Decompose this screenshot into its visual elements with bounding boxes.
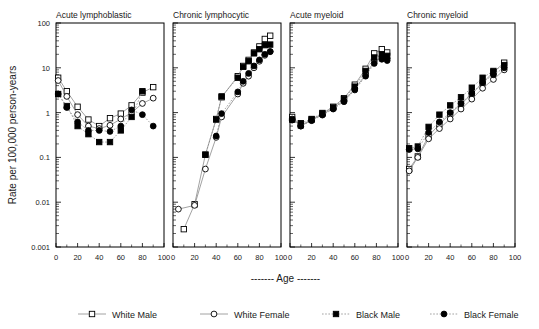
marker-filled-circle (289, 117, 295, 123)
leukemia-incidence-figure: Rate per 100,000 person-years1001010.10.… (0, 0, 539, 329)
legend-marker-open-square (89, 311, 94, 316)
x-tick-label: 60 (468, 253, 476, 262)
y-tick-label: 100 (37, 19, 50, 28)
legend-label: White Female (234, 310, 290, 320)
x-tick-label: 0 (171, 253, 175, 262)
x-tick-label: 80 (138, 253, 146, 262)
marker-filled-circle (246, 71, 252, 77)
marker-filled-circle (107, 129, 113, 135)
legend-label: Black Female (464, 310, 519, 320)
marker-filled-square (469, 85, 474, 90)
marker-open-square (107, 116, 112, 121)
x-tick-label: 0 (288, 253, 292, 262)
x-tick-label: 40 (212, 253, 220, 262)
marker-filled-circle (309, 118, 315, 124)
x-tick-label: 60 (351, 253, 359, 262)
marker-filled-circle (458, 101, 464, 107)
marker-open-circle (469, 96, 475, 102)
marker-filled-circle (150, 123, 156, 129)
marker-filled-square (214, 117, 219, 122)
marker-open-circle (426, 136, 432, 142)
marker-filled-square (129, 114, 134, 119)
marker-filled-circle (118, 123, 124, 129)
legend: White MaleWhite FemaleBlack MaleBlack Fe… (78, 310, 519, 320)
x-tick-label: 100 (275, 253, 288, 262)
marker-filled-circle (415, 146, 421, 152)
marker-open-circle (75, 112, 81, 118)
marker-filled-square (203, 152, 208, 157)
marker-filled-square (219, 94, 224, 99)
marker-filled-circle (251, 63, 257, 69)
x-tick-label: 80 (255, 253, 263, 262)
panel-4: Chronic myeloid020406080100 (405, 10, 521, 262)
marker-open-circle (437, 126, 443, 132)
x-tick-label: 40 (446, 253, 454, 262)
legend-label: White Male (112, 310, 157, 320)
marker-filled-square (458, 95, 463, 100)
panel-3: Acute myeloid020406080100 (288, 10, 404, 262)
x-tick-label: 100 (392, 253, 405, 262)
series-line-white-female (178, 52, 270, 210)
marker-open-circle (415, 155, 421, 161)
marker-filled-circle (363, 73, 369, 79)
panel-title: Chronic lymphocytic (173, 10, 250, 20)
marker-filled-circle (219, 111, 225, 117)
marker-filled-circle (298, 123, 304, 129)
x-tick-label: 100 (509, 253, 522, 262)
marker-filled-circle (426, 130, 432, 136)
marker-filled-circle (64, 105, 70, 111)
marker-filled-square (257, 47, 262, 52)
marker-filled-circle (469, 90, 475, 96)
marker-filled-circle (262, 51, 268, 57)
marker-filled-circle (341, 99, 347, 105)
marker-filled-circle (213, 133, 219, 139)
marker-open-square (262, 36, 267, 41)
legend-item-white-female[interactable]: White Female (200, 310, 290, 320)
series-line-black-female (292, 59, 387, 126)
marker-filled-circle (379, 56, 385, 62)
marker-filled-square (246, 59, 251, 64)
x-tick-label: 80 (489, 253, 497, 262)
x-tick-label: 80 (372, 253, 380, 262)
marker-open-circle (447, 116, 453, 122)
x-tick-label: 20 (73, 253, 81, 262)
marker-filled-square (241, 64, 246, 69)
y-tick-label: 0.1 (40, 153, 50, 162)
marker-filled-circle (384, 58, 390, 64)
legend-marker-filled-circle (441, 311, 447, 317)
y-axis-label: Rate per 100,000 person-years (7, 66, 18, 204)
marker-open-square (75, 104, 80, 109)
marker-filled-square (268, 42, 273, 47)
x-tick-label: 20 (190, 253, 198, 262)
marker-filled-circle (240, 78, 246, 84)
marker-filled-circle (447, 110, 453, 116)
marker-open-square (86, 117, 91, 122)
marker-open-circle (176, 206, 182, 212)
marker-filled-square (437, 112, 442, 117)
x-tick-label: 40 (95, 253, 103, 262)
marker-open-square (181, 226, 186, 231)
marker-filled-circle (352, 87, 358, 93)
y-tick-label: 1 (46, 109, 50, 118)
y-tick-label: 10 (42, 64, 50, 73)
marker-filled-circle (330, 106, 336, 112)
marker-filled-circle (491, 72, 497, 78)
legend-item-black-male[interactable]: Black Male (322, 310, 400, 320)
marker-filled-square (107, 139, 112, 144)
marker-open-square (379, 47, 384, 52)
panel-frame (56, 23, 164, 247)
panel-frame (407, 23, 515, 247)
x-tick-label: 20 (424, 253, 432, 262)
x-tick-label: 60 (234, 253, 242, 262)
marker-filled-circle (86, 128, 92, 134)
marker-filled-circle (480, 80, 486, 86)
legend-item-white-male[interactable]: White Male (78, 310, 157, 320)
marker-filled-square (426, 124, 431, 129)
marker-filled-square (235, 75, 240, 80)
x-axis-label: ------- Age ------- (251, 273, 320, 284)
x-tick-label: 20 (307, 253, 315, 262)
marker-open-circle (192, 202, 198, 208)
marker-filled-circle (96, 128, 102, 134)
marker-filled-circle (371, 61, 377, 67)
legend-item-black-female[interactable]: Black Female (430, 310, 519, 320)
